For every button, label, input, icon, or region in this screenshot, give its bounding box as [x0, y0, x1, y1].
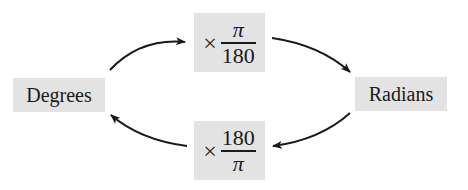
deg-to-rad-expression: × π 180: [203, 18, 256, 68]
arrow-radians-to-bottom: [273, 113, 350, 146]
degrees-label: Degrees: [26, 85, 92, 105]
rad-to-deg-factor: × 180 π: [194, 121, 265, 180]
deg-to-rad-factor: × π 180: [194, 13, 265, 72]
fraction-denominator: 180: [221, 44, 256, 68]
multiply-operator: ×: [203, 31, 217, 55]
radians-node: Radians: [355, 77, 447, 111]
arrow-bottom-to-degrees: [111, 115, 187, 146]
arrow-degrees-to-top: [110, 42, 185, 70]
radians-label: Radians: [369, 84, 433, 104]
fraction-numerator: π: [232, 18, 245, 42]
fraction-denominator: π: [232, 152, 245, 176]
rad-to-deg-expression: × 180 π: [203, 126, 256, 176]
degrees-node: Degrees: [13, 78, 105, 112]
arrow-top-to-radians: [272, 38, 350, 72]
multiply-operator: ×: [203, 139, 217, 163]
fraction: π 180: [221, 18, 256, 68]
fraction-numerator: 180: [221, 126, 256, 150]
fraction: 180 π: [221, 126, 256, 176]
